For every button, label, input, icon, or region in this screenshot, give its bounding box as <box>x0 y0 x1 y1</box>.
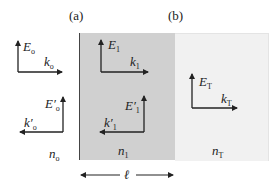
panel-label-b: (b) <box>168 8 183 24</box>
label-E-o-prime: E′o <box>45 97 60 113</box>
label-E-1-prime: E′1 <box>125 99 140 115</box>
label-n-1: n1 <box>118 144 129 160</box>
label-n-T: nT <box>212 144 223 160</box>
label-k-1: k1 <box>130 55 140 71</box>
label-E-T: ET <box>199 75 212 91</box>
panel-label-a: (a) <box>69 8 83 24</box>
label-k-T: kT <box>221 92 232 108</box>
label-k-o-prime: k′o <box>24 116 37 132</box>
label-E-1: E1 <box>108 38 120 54</box>
label-n-o: no <box>49 147 60 163</box>
label-k-o: ko <box>44 55 54 71</box>
label-thickness: ℓ <box>124 168 129 181</box>
label-k-1-prime: k′1 <box>104 116 117 132</box>
label-E-o: Eo <box>23 40 35 56</box>
vector-arrows <box>0 0 278 190</box>
